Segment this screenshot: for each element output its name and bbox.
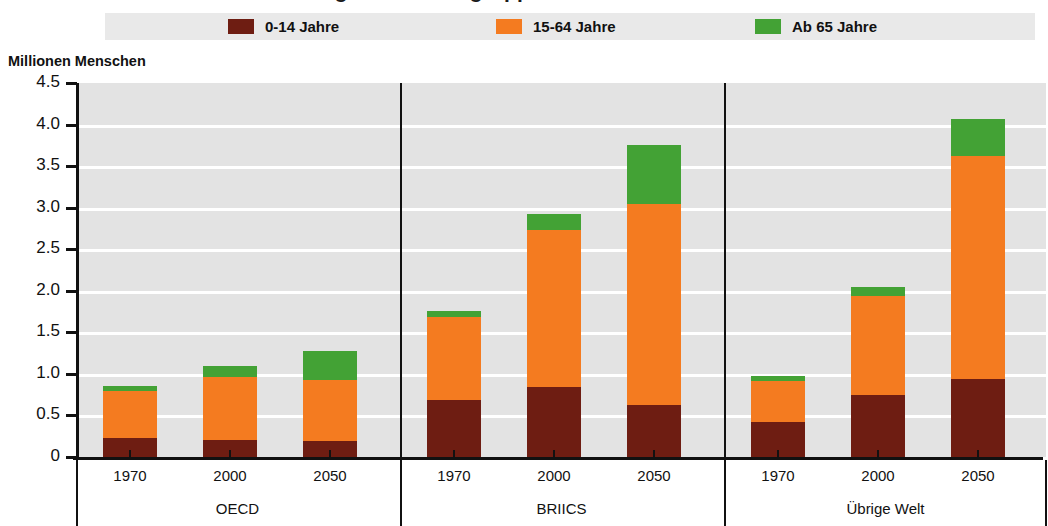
x-axis-group-divider [724,460,726,526]
x-axis-tick [877,450,879,460]
plot-group-separator [724,83,726,457]
x-axis-year-label: 1970 [90,467,170,484]
y-axis-label: 3.0 [4,197,60,217]
bar-segment-ab-65-jahre [627,145,681,203]
bar-briics-2000[interactable] [527,214,581,457]
x-axis-group-label-oecd: OECD [88,500,388,517]
bar-segment-15-64-jahre [527,230,581,387]
bar-briics-2050[interactable] [627,145,681,457]
plot-group-separator [400,83,402,457]
legend-label-ab-65: Ab 65 Jahre [792,18,877,35]
x-axis-tick [777,450,779,460]
x-axis-year-label: 2000 [514,467,594,484]
chart-title-strip: Weltbevölkerung nach Altersgruppen [0,0,1048,13]
x-axis-tick [229,450,231,460]
x-axis-group-divider [1045,460,1047,526]
x-axis-year-label: 2000 [190,467,270,484]
x-axis-year-label: 1970 [738,467,818,484]
bar-briics-1970[interactable] [427,311,481,457]
bar-segment-15-64-jahre [751,381,805,423]
x-axis-tick [553,450,555,460]
y-axis-label: 2.5 [4,238,60,258]
bar-übrige-welt-2050[interactable] [951,119,1005,457]
y-axis-title: Millionen Menschen [8,53,146,69]
x-axis-tick [129,450,131,460]
bar-segment-ab-65-jahre [203,366,257,378]
legend-item-15-64[interactable]: 15-64 Jahre [496,18,616,35]
bar-segment-15-64-jahre [427,317,481,400]
bar-oecd-2000[interactable] [203,366,257,457]
bar-segment-ab-65-jahre [851,287,905,295]
legend-swatch-15-64-icon [496,19,522,34]
chart-legend: 0-14 Jahre 15-64 Jahre Ab 65 Jahre [105,13,1035,40]
bar-segment-ab-65-jahre [527,214,581,230]
bar-segment-15-64-jahre [851,296,905,396]
bar-segment-15-64-jahre [627,204,681,406]
legend-swatch-0-14-icon [228,19,254,34]
y-axis-tick [66,82,77,85]
bar-segment-0-14-jahre [527,387,581,457]
x-axis-label-table: 197020002050OECD197020002050BRIICS197020… [76,460,1046,526]
y-axis-tick [66,414,77,417]
y-axis-label: 0.5 [4,404,60,424]
y-axis-tick [66,290,77,293]
x-axis-year-label: 2050 [938,467,1018,484]
legend-label-0-14: 0-14 Jahre [265,18,339,35]
y-axis-label: 0 [4,446,60,466]
y-axis-label: 1.5 [4,321,60,341]
bar-segment-15-64-jahre [203,377,257,439]
x-axis-year-label: 2050 [290,467,370,484]
x-axis-group-divider [76,460,78,526]
bar-segment-15-64-jahre [303,380,357,442]
gridline [79,166,1046,169]
y-axis-label: 4.5 [4,72,60,92]
x-axis-group-divider [400,460,402,526]
x-axis-year-label: 1970 [414,467,494,484]
legend-item-ab-65[interactable]: Ab 65 Jahre [755,18,877,35]
y-axis-label: 1.0 [4,363,60,383]
bar-segment-0-14-jahre [427,400,481,457]
y-axis-label: 2.0 [4,280,60,300]
y-axis-tick [66,165,77,168]
x-axis-group-label-briics: BRIICS [412,500,712,517]
gridline [79,125,1046,128]
bar-oecd-2050[interactable] [303,351,357,457]
legend-item-0-14[interactable]: 0-14 Jahre [228,18,339,35]
page-title: Weltbevölkerung nach Altersgruppen [176,0,555,3]
x-axis-group-label-übrige-welt: Übrige Welt [736,500,1036,517]
bar-segment-ab-65-jahre [951,119,1005,156]
y-axis-tick [66,331,77,334]
legend-swatch-ab-65-icon [755,19,781,34]
x-axis-tick [329,450,331,460]
bar-segment-0-14-jahre [851,395,905,457]
bar-segment-ab-65-jahre [303,351,357,379]
gridline [79,208,1046,211]
x-axis-tick [453,450,455,460]
bar-segment-ab-65-jahre [427,311,481,318]
y-axis-label: 4.0 [4,114,60,134]
y-axis-label: 3.5 [4,155,60,175]
y-axis-tick [66,373,77,376]
bar-übrige-welt-1970[interactable] [751,376,805,457]
bar-übrige-welt-2000[interactable] [851,287,905,457]
bar-segment-0-14-jahre [951,379,1005,457]
legend-label-15-64: 15-64 Jahre [533,18,616,35]
x-axis-year-label: 2050 [614,467,694,484]
x-axis-year-label: 2000 [838,467,918,484]
y-axis-tick [66,124,77,127]
x-axis-tick [977,450,979,460]
x-axis-tick [653,450,655,460]
y-axis-tick [66,248,77,251]
bar-oecd-1970[interactable] [103,386,157,457]
bar-segment-15-64-jahre [103,391,157,438]
y-axis-tick [66,207,77,210]
bar-segment-15-64-jahre [951,156,1005,379]
